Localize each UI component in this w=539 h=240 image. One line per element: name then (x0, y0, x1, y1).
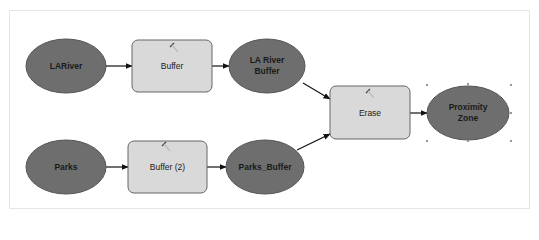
label-buffer2: Buffer (2) (128, 157, 207, 177)
label-buffer: Buffer (132, 56, 212, 76)
label-la-river-buffer: LA River Buffer (229, 54, 305, 78)
label-line2: Zone (458, 113, 478, 124)
label-parks-buffer: Parks_Buffer (226, 157, 304, 177)
edge-parksbuffer-erase[interactable] (297, 134, 330, 150)
label-lariver: LARiver (26, 56, 106, 76)
label-line2: Buffer (254, 66, 279, 77)
label-line1: LA River (250, 55, 285, 66)
edge-lariverbuffer-erase[interactable] (303, 83, 330, 99)
label-erase: Erase (330, 103, 410, 123)
label-parks: Parks (26, 157, 106, 177)
label-proximity-zone: Proximity Zone (427, 101, 509, 125)
label-line1: Proximity (449, 102, 488, 113)
